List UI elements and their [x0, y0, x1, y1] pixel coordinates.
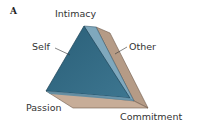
vertex-label-intimacy: Intimacy: [55, 8, 96, 19]
vertex-label-passion: Passion: [26, 102, 62, 113]
face-label-other: Other: [129, 41, 156, 52]
face-label-self: Self: [32, 41, 50, 52]
self-leader-line: [55, 48, 70, 55]
vertex-label-commitment: Commitment: [120, 111, 182, 122]
